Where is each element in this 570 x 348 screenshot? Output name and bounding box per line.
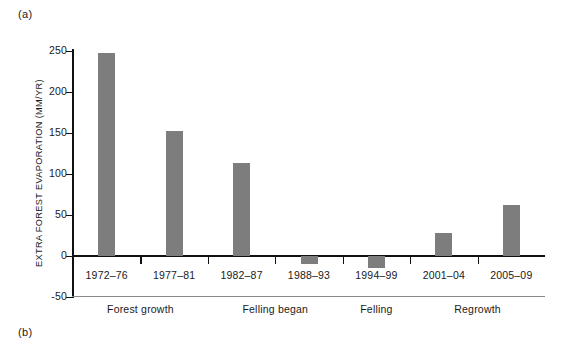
y-tick-label-100: 100 — [7, 167, 67, 179]
x-tick — [208, 257, 209, 264]
x-tick — [410, 257, 411, 264]
bar — [301, 256, 318, 264]
x-tick — [343, 257, 344, 264]
y-tick-label-200: 200 — [7, 85, 67, 97]
y-tick-200 — [66, 92, 73, 93]
x-tick — [275, 257, 276, 264]
y-tick-50 — [66, 215, 73, 216]
bar — [233, 163, 250, 256]
x-tick — [478, 257, 479, 264]
y-tick-label-50: 50 — [7, 208, 67, 220]
bar-chart: EXTRA FOREST EVAPORATION (MM/YR) -500501… — [0, 0, 570, 348]
x-tick — [140, 257, 141, 264]
bar — [166, 131, 183, 256]
y-tick-label-150: 150 — [7, 126, 67, 138]
bar — [503, 205, 520, 256]
y-tick-150 — [66, 133, 73, 134]
y-tick-100 — [66, 174, 73, 175]
period-annotation: Regrowth — [408, 303, 548, 315]
y-tick-label-250: 250 — [7, 44, 67, 56]
period-annotation: Forest growth — [70, 303, 210, 315]
y-tick--50 — [66, 297, 73, 298]
x-tick-label: 2005–09 — [471, 269, 551, 281]
y-tick-250 — [66, 51, 73, 52]
y-tick-label-0: 0 — [7, 249, 67, 261]
x-axis-baseline — [72, 296, 545, 297]
bar — [98, 53, 115, 256]
y-tick-0 — [66, 256, 73, 257]
bar — [435, 233, 452, 256]
y-tick-label--50: -50 — [7, 290, 67, 302]
bar — [368, 256, 385, 268]
